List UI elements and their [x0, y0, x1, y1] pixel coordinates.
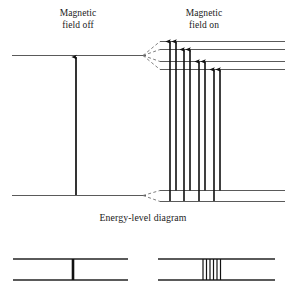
spectrum-field-on-group — [158, 259, 275, 280]
upper-splitting-guide-4 — [143, 56, 160, 70]
energy-level-figure: Magnetic field off Magnetic field on Ene… — [0, 0, 287, 295]
split-lower-levels-group — [160, 191, 285, 202]
lower-splitting-guide-1 — [143, 191, 160, 196]
split-transitions-group — [170, 42, 220, 202]
split-upper-levels-group — [160, 42, 285, 70]
upper-splitting-guide-2 — [143, 50, 160, 56]
upper-splitting-guide-1 — [143, 42, 160, 56]
upper-splitting-guide-3 — [143, 56, 160, 62]
diagram-canvas — [0, 0, 287, 295]
splitting-guides-group — [143, 42, 160, 202]
lower-splitting-guide-2 — [143, 196, 160, 202]
spectrum-field-off-group — [13, 259, 128, 280]
unsplit-levels-group — [12, 56, 146, 196]
